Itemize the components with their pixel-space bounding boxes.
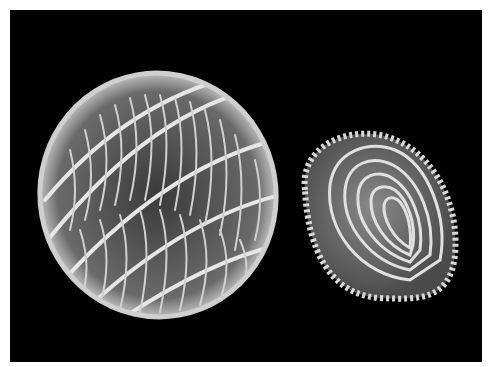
photo [0, 0, 489, 367]
spherical-reticulate-shell [21, 54, 296, 335]
oval-concentric-shell [305, 134, 456, 299]
